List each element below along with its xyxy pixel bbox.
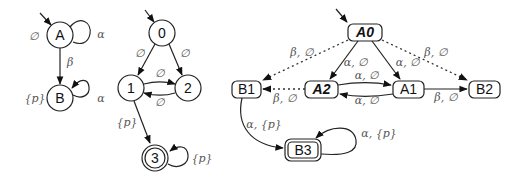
loop-3 (168, 147, 188, 167)
edge-A-B-label: β (66, 56, 73, 69)
state-B1-label: B1 (238, 81, 255, 97)
automata-diagram: A ∅ α β B {p} α 0 1 2 ∅ ∅ ∅ ∅ {p} 3 (0, 0, 524, 176)
edge-0-1-label: ∅ (135, 47, 145, 60)
loop-B-label: α (97, 92, 105, 105)
state-A2-label: A2 (312, 81, 331, 97)
edge-A1-B2-label: β, ∅ (433, 91, 457, 104)
diagram-2: 0 1 2 ∅ ∅ ∅ ∅ {p} 3 {p} (116, 10, 212, 171)
loop-3-label: {p} (191, 152, 212, 165)
state-1-label: 1 (127, 80, 135, 96)
diagram-1: A ∅ α β B {p} α (24, 13, 105, 111)
edge-A0-A1-label: α, ∅ (396, 56, 420, 69)
loop-B (72, 80, 89, 97)
state-3-label: 3 (151, 150, 159, 166)
edge-A0-A2-label: α, ∅ (344, 56, 368, 69)
loop-B3 (316, 128, 356, 154)
edge-2-1-label: ∅ (155, 96, 165, 109)
edge-1-2-label: ∅ (155, 67, 165, 80)
edge-1-2 (144, 82, 175, 84)
state-B-label: B (55, 90, 64, 106)
edge-A2-A1 (338, 83, 391, 85)
state-A0-label: A0 (355, 24, 374, 40)
state-0-label: 0 (158, 25, 166, 41)
edge-A2-A1-label: α, ∅ (355, 69, 379, 82)
state-B3-label: B3 (294, 142, 311, 158)
loop-B3-label: α, {p} (361, 127, 396, 140)
edge-B1-B3-label: α, {p} (246, 118, 281, 131)
edge-A1-A2-label: α, ∅ (355, 94, 379, 107)
state-2-label: 2 (184, 80, 192, 96)
initial-arrow-0 (145, 10, 154, 22)
loop-A-label: α (97, 28, 105, 41)
diagram-3: A0 B1 A2 A1 B2 B3 β, ∅ β, ∅ β, ∅ α, ∅ α,… (232, 9, 500, 161)
state-A-label: A (55, 27, 65, 43)
edge-0-2-label: ∅ (180, 47, 190, 60)
state-B-prop: {p} (24, 92, 45, 105)
edge-A2-B1-label: β, ∅ (272, 92, 296, 105)
edge-A0-B2-label: β, ∅ (423, 46, 447, 59)
edge-2-1 (144, 93, 175, 95)
state-A-prop: ∅ (29, 30, 39, 43)
initial-arrow-A (40, 13, 51, 25)
state-B2-label: B2 (476, 81, 493, 97)
edge-1-3-label: {p} (116, 116, 137, 129)
initial-arrow-A0 (336, 9, 347, 22)
state-A1-label: A1 (400, 81, 417, 97)
edge-A0-B1-label: β, ∅ (289, 46, 313, 59)
